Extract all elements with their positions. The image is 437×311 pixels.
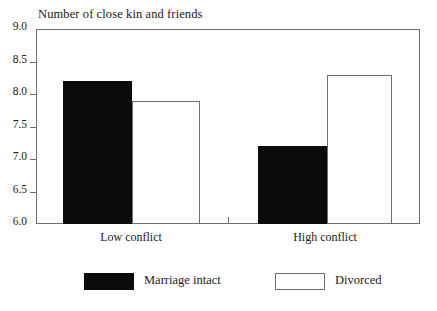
bar-marriage-intact-high-conflict (258, 146, 327, 224)
bar-divorced-low-conflict (132, 101, 200, 225)
legend-label: Marriage intact (144, 272, 221, 288)
x-axis-label-high-conflict: High conflict (255, 230, 395, 244)
x-axis-label-low-conflict: Low conflict (61, 230, 201, 244)
bar-divorced-high-conflict (327, 75, 392, 225)
chart-legend: Marriage intactDivorced (0, 270, 437, 302)
legend-swatch-hollow (275, 273, 325, 290)
bar-marriage-intact-low-conflict (63, 81, 132, 224)
bar-chart: Number of close kin and friends 9.08.58.… (0, 0, 437, 311)
legend-label: Divorced (335, 272, 382, 288)
legend-swatch-filled (84, 273, 134, 290)
x-axis-group-separator-tick (228, 217, 229, 224)
bars-layer (0, 0, 437, 311)
